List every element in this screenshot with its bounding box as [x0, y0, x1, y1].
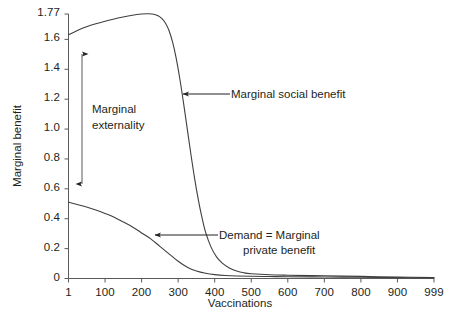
annotation-marginal-social-benefit: Marginal social benefit: [231, 87, 345, 102]
x-axis-label: Vaccinations: [180, 297, 300, 309]
annotation-demand-line1: Demand = Marginal: [219, 229, 320, 241]
y-tick-label: 0: [14, 271, 60, 283]
y-tick-label: 1.77: [14, 6, 60, 18]
x-tick-label: 999: [409, 286, 459, 298]
chart-canvas: [0, 0, 460, 321]
y-tick-label: 1.2: [14, 91, 60, 103]
marginal-benefit-chart: Marginal benefit Vaccinations 00.20.40.6…: [0, 0, 460, 321]
annotation-marginal-externality: Marginal externality: [92, 101, 144, 133]
x-tick-marks: [69, 279, 435, 283]
y-tick-label: 1.6: [14, 31, 60, 43]
y-tick-marks: [65, 14, 69, 279]
annotation-demand-line2: private benefit: [219, 243, 320, 258]
y-tick-label: 1.4: [14, 61, 60, 73]
y-tick-label: 0.4: [14, 211, 60, 223]
annotation-externality-line2: externality: [92, 119, 144, 131]
annotation-arrows: [82, 54, 230, 235]
annotation-demand-marginal-private-benefit: Demand = Marginal private benefit: [219, 228, 320, 258]
y-tick-label: 0.2: [14, 241, 60, 253]
y-tick-label: 0.8: [14, 151, 60, 163]
y-tick-label: 1.0: [14, 121, 60, 133]
y-tick-label: 0.6: [14, 181, 60, 193]
annotation-externality-line1: Marginal: [92, 103, 136, 115]
